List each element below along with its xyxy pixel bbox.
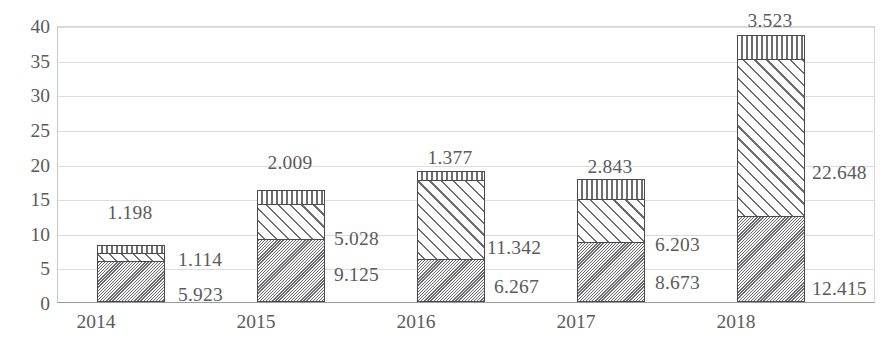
x-label-2015: 2015 bbox=[196, 312, 316, 332]
value-label-middle-2017: 6.203 bbox=[655, 235, 700, 255]
y-axis: 40 35 30 25 20 15 10 5 0 bbox=[0, 0, 891, 353]
y-tick-15: 15 bbox=[8, 190, 50, 210]
stacked-bar-chart: 40 35 30 25 20 15 10 5 0 1.198 2.009 1.3… bbox=[0, 0, 891, 353]
value-label-top-2017: 2.843 bbox=[550, 157, 670, 177]
value-label-top-2018: 3.523 bbox=[710, 11, 830, 31]
value-label-bottom-2016: 6.267 bbox=[494, 277, 539, 297]
value-label-middle-2016: 11.342 bbox=[487, 238, 541, 258]
y-tick-20: 20 bbox=[8, 156, 50, 176]
y-tick-35: 35 bbox=[8, 52, 50, 72]
value-label-top-2014: 1.198 bbox=[70, 203, 190, 223]
x-label-2017: 2017 bbox=[516, 312, 636, 332]
y-tick-25: 25 bbox=[8, 121, 50, 141]
value-label-top-2015: 2.009 bbox=[230, 153, 350, 173]
value-label-top-2016: 1.377 bbox=[390, 148, 510, 168]
value-label-bottom-2018: 12.415 bbox=[812, 279, 867, 299]
y-tick-0: 0 bbox=[8, 294, 50, 314]
x-label-2018: 2018 bbox=[676, 312, 796, 332]
x-label-2014: 2014 bbox=[36, 312, 156, 332]
value-label-middle-2014: 1.114 bbox=[178, 250, 222, 270]
value-label-bottom-2014: 5.923 bbox=[178, 285, 223, 305]
y-tick-40: 40 bbox=[8, 17, 50, 37]
value-label-bottom-2017: 8.673 bbox=[655, 273, 700, 293]
y-tick-30: 30 bbox=[8, 86, 50, 106]
y-tick-10: 10 bbox=[8, 225, 50, 245]
x-label-2016: 2016 bbox=[356, 312, 476, 332]
value-label-middle-2015: 5.028 bbox=[334, 229, 379, 249]
value-label-bottom-2015: 9.125 bbox=[334, 265, 379, 285]
value-label-middle-2018: 22.648 bbox=[812, 163, 867, 183]
y-tick-5: 5 bbox=[8, 259, 50, 279]
